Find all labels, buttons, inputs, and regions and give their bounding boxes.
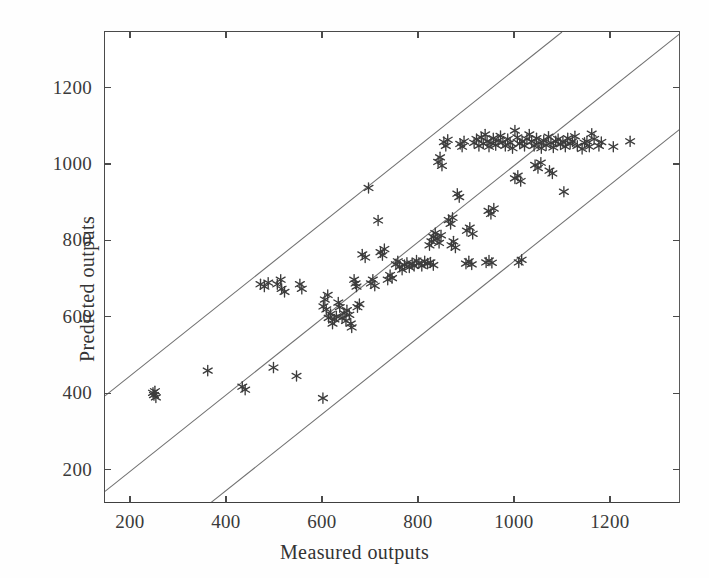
scatter-data-layer [105,32,679,502]
y-tick-600-left [104,316,111,317]
data-point [203,366,212,376]
y-tick-800-left [104,240,111,241]
x-tick-400-bottom [225,496,226,503]
plot-area [104,31,680,503]
x-tick-800-top [417,31,418,38]
x-tick-label-1000: 1000 [494,511,533,533]
figure-canvas: 2004006008001000120020040060080010001200… [0,0,709,578]
data-point [511,126,520,136]
data-point [292,371,301,381]
y-tick-label-1000: 1000 [0,153,92,175]
y-tick-1000-right [673,163,680,164]
x-tick-1000-bottom [513,496,514,503]
y-tick-1000-left [104,163,111,164]
x-axis-label: Measured outputs [0,541,709,564]
data-point [347,322,356,332]
data-point [319,393,328,403]
x-tick-600-bottom [321,496,322,503]
y-tick-label-400: 400 [0,382,92,404]
x-tick-200-bottom [129,496,130,503]
x-tick-1200-top [609,31,610,38]
y-tick-400-right [673,393,680,394]
y-tick-200-left [104,469,111,470]
x-tick-1000-top [513,31,514,38]
lower-bound-line [209,128,679,502]
x-tick-label-800: 800 [403,511,432,533]
y-axis-label: Predicted outputs [76,216,99,362]
x-tick-label-600: 600 [307,511,336,533]
x-tick-800-bottom [417,496,418,503]
data-point [269,362,278,372]
y-tick-label-1200: 1200 [0,77,92,99]
data-point [559,187,568,197]
x-tick-1200-bottom [609,496,610,503]
x-tick-label-400: 400 [211,511,240,533]
x-tick-400-top [225,31,226,38]
y-tick-800-right [673,240,680,241]
y-tick-label-200: 200 [0,459,92,481]
data-point [626,136,635,146]
data-point [374,215,383,225]
y-tick-400-left [104,393,111,394]
y-tick-200-right [673,469,680,470]
data-point [609,142,618,152]
x-tick-600-top [321,31,322,38]
x-tick-200-top [129,31,130,38]
x-tick-label-1200: 1200 [590,511,629,533]
y-tick-1200-left [104,87,111,88]
y-tick-1200-right [673,87,680,88]
y-tick-600-right [673,316,680,317]
x-tick-label-200: 200 [115,511,144,533]
